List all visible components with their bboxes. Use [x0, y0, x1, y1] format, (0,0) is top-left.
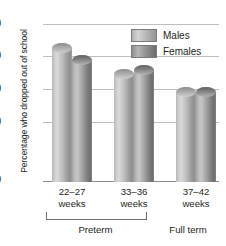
bar-cap — [114, 69, 134, 79]
y-tick-label-0: 0 — [0, 174, 1, 185]
x-label-22-27: 22–27 weeks — [41, 186, 103, 209]
bar-body — [52, 48, 72, 182]
legend-label-females: Females — [163, 46, 201, 57]
bar-body — [72, 60, 92, 182]
x-label-37-42: 37–42 weeks — [165, 186, 226, 209]
bar-cap — [176, 87, 196, 97]
gridline-40 — [43, 24, 219, 25]
bar-males-22-27 — [52, 43, 72, 182]
bar-body — [196, 92, 216, 182]
bar-chart: Percentage who dropped out of school 40 … — [0, 0, 226, 246]
x-label-line2: weeks — [41, 198, 103, 210]
males-swatch-icon — [131, 29, 157, 42]
group-label-preterm: Preterm — [46, 224, 145, 235]
bar-males-33-36 — [114, 69, 134, 182]
bar-females-37-42 — [196, 87, 216, 182]
bar-females-22-27 — [72, 55, 92, 182]
bar-males-37-42 — [176, 87, 196, 182]
bar-cap — [134, 65, 154, 75]
bar-females-33-36 — [134, 65, 154, 182]
y-tick-label-40: 40 — [0, 18, 1, 29]
bar-body — [114, 74, 134, 182]
legend-item-males: Males — [131, 28, 201, 42]
x-label-line2: weeks — [103, 198, 165, 210]
y-tick-label-10: 10 — [0, 116, 1, 127]
bar-cap — [72, 55, 92, 65]
legend-item-females: Females — [131, 44, 201, 58]
bar-cap — [52, 43, 72, 53]
bar-body — [176, 92, 196, 182]
group-label-full-term: Full term — [157, 224, 219, 235]
y-axis-title: Percentage who dropped out of school — [19, 11, 29, 191]
y-tick-label-30: 30 — [0, 50, 1, 61]
females-swatch-icon — [131, 45, 157, 58]
y-tick-label-20: 20 — [0, 83, 1, 94]
legend: Males Females — [131, 28, 201, 60]
group-bracket-preterm — [46, 212, 147, 220]
x-label-line1: 33–36 — [121, 186, 148, 197]
legend-label-males: Males — [163, 30, 190, 41]
x-label-33-36: 33–36 weeks — [103, 186, 165, 209]
x-label-line1: 37–42 — [183, 186, 210, 197]
x-label-line1: 22–27 — [59, 186, 86, 197]
bar-cap — [196, 87, 216, 97]
bar-body — [134, 70, 154, 182]
x-label-line2: weeks — [165, 198, 226, 210]
